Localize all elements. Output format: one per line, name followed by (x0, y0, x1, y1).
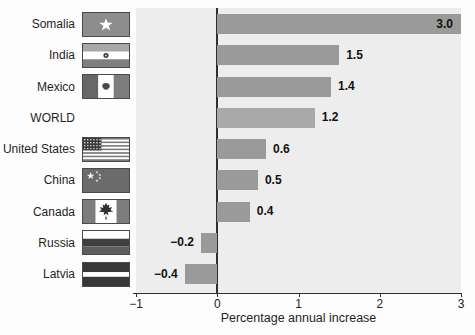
value-label: 0.6 (273, 142, 317, 157)
value-label: 0.4 (257, 204, 301, 219)
value-label: −0.2 (150, 235, 194, 250)
category-label: Canada (0, 204, 75, 220)
value-label: −0.4 (134, 267, 178, 282)
x-tick-label: 1 (284, 297, 314, 311)
x-tick-label: 0 (202, 297, 232, 311)
value-label: 0.5 (265, 173, 309, 188)
value-label: 1.2 (322, 110, 366, 125)
x-axis-line (133, 293, 461, 294)
category-label: United States (0, 141, 75, 157)
category-label: India (0, 47, 75, 63)
value-label: 1.5 (346, 48, 390, 63)
bar (217, 202, 250, 222)
category-label: Latvia (0, 266, 75, 282)
flag-icon-russia (82, 230, 130, 255)
category-label: WORLD (0, 110, 75, 126)
flag-icon-latvia (82, 262, 130, 287)
bar (217, 108, 315, 128)
bar (217, 45, 339, 65)
value-label: 1.4 (338, 79, 382, 94)
x-tick-label: 2 (365, 297, 395, 311)
flag-icon-mexico (82, 74, 130, 99)
bar (217, 77, 331, 97)
x-axis-title: Percentage annual increase (136, 311, 461, 326)
category-label: China (0, 172, 75, 188)
x-tick-label: 3 (446, 297, 475, 311)
population-growth-bar-chart: Somalia3.0India1.5Mexico1.4WORLD1.2Unite… (0, 0, 475, 335)
category-label: Somalia (0, 16, 75, 32)
flag-icon-china (82, 168, 130, 193)
bar (217, 170, 258, 190)
bar (217, 139, 266, 159)
flag-icon-united-states (82, 137, 130, 162)
category-label: Russia (0, 235, 75, 251)
flag-icon-canada (82, 199, 130, 224)
flag-icon-somalia (82, 12, 130, 37)
flag-icon-india (82, 43, 130, 68)
value-label: 3.0 (409, 17, 453, 32)
category-label: Mexico (0, 79, 75, 95)
bar (185, 264, 218, 284)
x-tick-label: −1 (121, 297, 151, 311)
bar (201, 233, 217, 253)
